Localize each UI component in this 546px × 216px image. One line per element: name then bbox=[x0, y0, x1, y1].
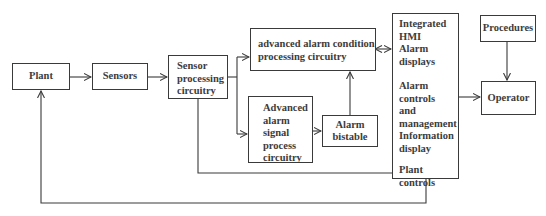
advanced-alarm-signal-box: Advanced alarm signal process circuitry bbox=[248, 96, 313, 163]
sensor-processing-label: Sensor processing circuitry bbox=[177, 60, 224, 96]
advanced-alarm-signal-label: Advanced alarm signal process circuitry bbox=[263, 102, 308, 163]
operator-box: Operator bbox=[481, 81, 536, 115]
plant-box: Plant bbox=[12, 63, 70, 90]
diagram-canvas: Plant Sensors Sensor processing circuitr… bbox=[0, 0, 546, 216]
advanced-alarm-condition-box: advanced alarm condition processing circ… bbox=[250, 28, 376, 71]
advanced-alarm-condition-label: advanced alarm condition processing circ… bbox=[258, 38, 375, 62]
procedures-label: Procedures bbox=[483, 22, 533, 35]
hmi-item-alarm-controls: Alarm controls and management bbox=[399, 80, 458, 130]
sensors-box: Sensors bbox=[92, 63, 148, 90]
operator-label: Operator bbox=[488, 92, 530, 105]
hmi-item-plant-controls: Plant controls bbox=[399, 164, 458, 189]
hmi-title: Integrated HMI bbox=[399, 18, 458, 43]
hmi-item-information-display: Information display bbox=[399, 130, 454, 155]
plant-label: Plant bbox=[29, 70, 53, 83]
alarm-bistable-label: Alarm bistable bbox=[332, 119, 367, 144]
sensor-processing-box: Sensor processing circuitry bbox=[168, 55, 228, 99]
sensors-label: Sensors bbox=[103, 70, 137, 83]
procedures-box: Procedures bbox=[480, 15, 536, 42]
edge-hmi-plant-feedback bbox=[41, 91, 426, 203]
hmi-item-alarm-displays: Alarm displays bbox=[399, 43, 435, 68]
integrated-hmi-box: Integrated HMI Alarm displays Alarm cont… bbox=[392, 13, 459, 179]
alarm-bistable-box: Alarm bistable bbox=[322, 115, 378, 147]
